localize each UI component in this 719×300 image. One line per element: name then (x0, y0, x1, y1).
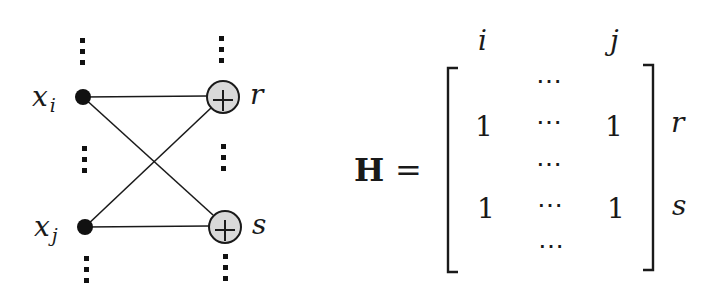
matrix-name: H (354, 151, 384, 189)
matrix-row-4: ⋯ (538, 231, 564, 261)
cell-right: 1 (607, 192, 625, 225)
cell-mid: ⋯ (536, 107, 562, 137)
edge-xj-s (85, 226, 209, 227)
matrix-row-0: ⋯ (536, 66, 562, 96)
cell-mid: ⋯ (537, 190, 563, 220)
check-node-r (207, 81, 239, 113)
vdots-left-bottom (84, 256, 89, 283)
edge-xi-s (83, 97, 213, 215)
cell-mid: ⋯ (536, 66, 562, 96)
row-label-s: s (672, 189, 686, 222)
vdots-left-top (80, 38, 85, 65)
cell-mid: ⋯ (538, 231, 564, 261)
variable-node-xi (75, 89, 91, 105)
cell-left: 1 (477, 192, 495, 225)
matrix-row-1: 1 ⋯ 1 (475, 107, 623, 143)
vdots-left-mid (82, 146, 87, 173)
matrix-row-2: ⋯ (536, 149, 562, 179)
edge-xi-r (83, 96, 207, 97)
row-label-r: r (671, 106, 686, 139)
column-label-j: j (604, 24, 619, 57)
vdots-right-mid (221, 144, 226, 171)
right-bracket (643, 65, 653, 270)
cell-left: 1 (475, 110, 493, 143)
graph-edges (83, 96, 213, 227)
check-node-s (209, 211, 241, 243)
vdots-right-top (219, 36, 224, 63)
edge-xj-r (85, 108, 211, 227)
label-r: r (250, 78, 265, 111)
factor-graph-figure: xi xj r s H = i j ⋯ 1 ⋯ 1 ⋯ 1 ⋯ 1 ⋯ r s (0, 0, 719, 300)
label-s: s (252, 208, 266, 241)
cell-right: 1 (605, 110, 623, 143)
cell-mid: ⋯ (536, 149, 562, 179)
label-xj: xj (34, 210, 58, 246)
column-label-i: i (478, 24, 487, 57)
left-bracket (448, 68, 458, 272)
equals-sign: = (395, 151, 422, 189)
variable-node-xj (77, 219, 93, 235)
matrix-row-3: 1 ⋯ 1 (477, 190, 625, 225)
vdots-right-bottom (223, 254, 228, 281)
label-xi: xi (32, 80, 56, 116)
